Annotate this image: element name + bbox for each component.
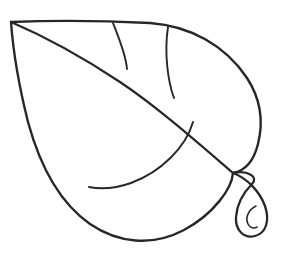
drawing-canvas xyxy=(0,0,285,262)
canvas-background xyxy=(0,0,285,262)
leaf-illustration xyxy=(0,0,285,262)
